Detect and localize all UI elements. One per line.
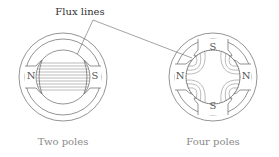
pole-label-n-left: N	[176, 70, 185, 81]
pole-label-s-bottom: S	[210, 100, 217, 111]
pole-label-n-right: N	[242, 70, 251, 81]
two-poles-caption: Two poles	[38, 136, 89, 147]
pole-label-n: N	[27, 70, 36, 81]
flux-lines-label: Flux lines	[55, 6, 104, 17]
leader-lines	[70, 20, 192, 70]
pole-label-s-top: S	[210, 41, 217, 52]
pole-label-s: S	[92, 70, 99, 81]
diagram-canvas	[0, 0, 279, 157]
four-poles-caption: Four poles	[186, 136, 239, 147]
